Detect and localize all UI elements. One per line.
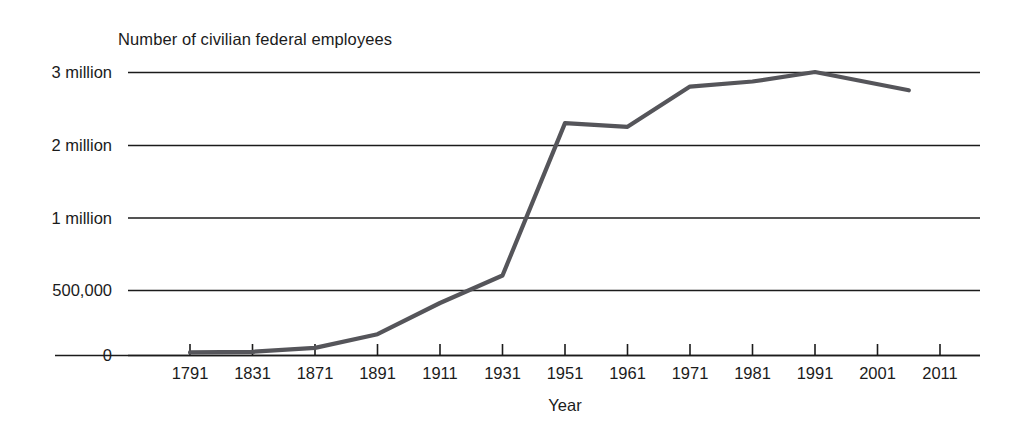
data-series-line [190, 72, 909, 352]
x-tick-label: 1891 [343, 364, 413, 383]
x-tick-label: 1831 [218, 364, 288, 383]
y-tick-label: 3 million [0, 63, 120, 82]
y-tick-label: 1 million [0, 208, 120, 227]
x-tick-label: 2011 [905, 364, 975, 383]
y-tick-label: 500,000 [0, 281, 120, 300]
x-axis-title: Year [548, 396, 581, 415]
chart-figure: Number of civilian federal employees 050… [0, 0, 1026, 440]
x-tick-label: 1871 [280, 364, 350, 383]
y-tick-label: 2 million [0, 136, 120, 155]
x-tick-label: 1931 [468, 364, 538, 383]
x-tick-label: 1791 [155, 364, 225, 383]
x-tick-label: 1971 [655, 364, 725, 383]
x-tick-label: 1961 [593, 364, 663, 383]
y-tick-label: 0 [0, 346, 120, 365]
x-tick-label: 1991 [780, 364, 850, 383]
x-tick-label: 1951 [530, 364, 600, 383]
gridlines-group [128, 73, 980, 356]
x-tick-label: 1981 [718, 364, 788, 383]
x-tick-label: 1911 [405, 364, 475, 383]
x-tick-label: 2001 [843, 364, 913, 383]
